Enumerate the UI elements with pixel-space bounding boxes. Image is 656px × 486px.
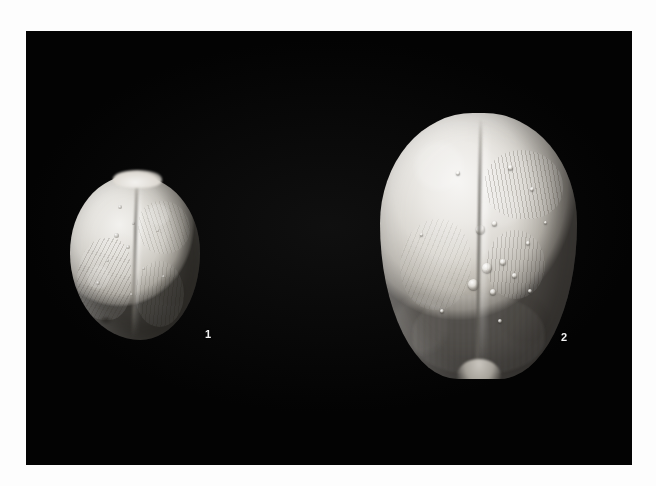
tubercle	[456, 171, 460, 175]
tubercle	[528, 289, 532, 293]
specimen-plate-photo: 1 2	[26, 31, 632, 465]
tubercle	[512, 273, 517, 278]
tubercle	[440, 309, 444, 313]
specimen-1-apical-bump	[113, 170, 162, 188]
figure-number-label-1: 1	[205, 329, 211, 340]
tubercle	[526, 241, 530, 245]
specimen-figure-2	[380, 113, 577, 379]
specimen-figure-1	[70, 175, 200, 340]
tubercle	[492, 221, 497, 226]
tubercle	[544, 221, 547, 224]
tubercle	[498, 319, 502, 323]
tubercle	[106, 259, 109, 262]
specimen-2-test-body	[380, 113, 577, 379]
tubercle	[118, 205, 122, 209]
tubercle	[530, 187, 534, 191]
tubercle	[156, 229, 159, 232]
tubercle	[142, 267, 145, 270]
plate-page: 1 2	[0, 0, 656, 486]
specimen-1-marginal-notch	[99, 317, 113, 325]
tubercle	[490, 289, 496, 295]
tubercle	[508, 165, 513, 170]
tubercle	[162, 275, 165, 278]
tubercle	[126, 245, 130, 249]
tubercle	[420, 233, 423, 236]
specimen-1-test-body	[70, 175, 200, 340]
tubercle	[114, 233, 119, 238]
figure-number-label-2: 2	[561, 332, 567, 343]
tubercle	[96, 281, 100, 285]
tubercle	[500, 259, 506, 265]
